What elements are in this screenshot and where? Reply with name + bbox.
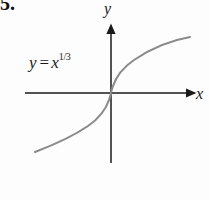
graph-canvas bbox=[0, 0, 210, 201]
equation-lhs: y bbox=[29, 53, 37, 72]
y-axis-label: y bbox=[104, 1, 111, 17]
equation-label: y=x1/3 bbox=[29, 53, 71, 71]
arrow-right-icon bbox=[186, 88, 197, 97]
equation-operator: = bbox=[40, 53, 50, 72]
figure-container: 5. y x y=x1/3 bbox=[0, 0, 210, 201]
equation-base: x bbox=[51, 53, 59, 72]
arrow-up-icon bbox=[106, 24, 115, 35]
equation-exponent: 1/3 bbox=[59, 51, 71, 62]
x-axis-label: x bbox=[196, 86, 203, 102]
